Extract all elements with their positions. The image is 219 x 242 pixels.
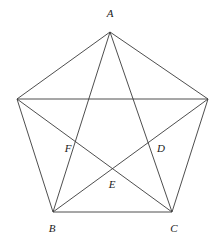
vertex-label-b: B [49,223,56,234]
point-label-e: E [109,179,116,190]
pentagon-diagram: A B C D E F [0,0,219,242]
diagonal-a-to-b [53,32,110,212]
side-a-to-right-vertex [110,32,208,99]
diagonal-left-vertex-to-c [17,99,172,212]
diagonal-right-vertex-to-b [53,99,208,212]
diagonal-a-to-c [110,32,172,212]
vertex-label-a: A [107,8,114,19]
side-right-vertex-to-c [172,99,208,212]
side-a-to-left-vertex [17,32,110,99]
pentagon-drawing-canvas [0,0,219,242]
point-label-d: D [157,143,165,154]
side-left-vertex-to-b [17,99,53,212]
vertex-label-c: C [170,223,177,234]
point-label-f: F [65,143,72,154]
